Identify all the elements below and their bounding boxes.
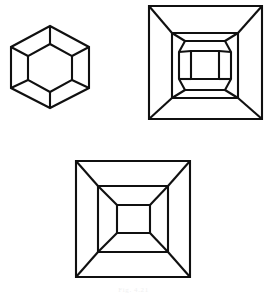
squarefig-outer-diagonal-bl [76,252,98,277]
squarefig-inner-diagonal-bl [98,233,117,252]
octagonfig-outer-diagonal-tl [149,6,172,33]
octagonfig-inner-square [191,51,219,79]
figure-square-octagon [149,6,262,119]
hexagon-inner-outline [28,44,72,92]
octagonfig-diagonal-6 [219,51,231,52]
octagonfig-outer-diagonal-bl [149,98,172,119]
octagonfig-outer-diagonal-tr [238,6,262,33]
octagonfig-diagonal-4 [172,90,185,98]
squarefig-outer-square [76,161,190,277]
hexagon-spoke-top-right [72,47,89,56]
octagonfig-diagonal-1 [172,33,185,41]
squarefig-outer-diagonal-tl [76,161,98,186]
hexagon-spoke-top-left [11,47,28,56]
hexagon-spoke-bottom-left [11,80,28,88]
octagonfig-outer-diagonal-br [238,98,262,119]
hexagon-spoke-bottom-right [72,80,89,88]
octagonfig-diagonal-5 [179,51,191,52]
squarefig-inner-diagonal-tl [98,186,117,205]
squarefig-inner-diagonal-tr [150,186,168,205]
figure-canvas [0,0,267,295]
octagonfig-outer-square [149,6,262,119]
octagonfig-middle-square [172,33,238,98]
figure-caption: Fig. 4.21 [0,286,267,294]
figure-nested-squares [76,161,190,277]
squarefig-outer-diagonal-br [168,252,190,277]
squarefig-outer-diagonal-tr [168,161,190,186]
squarefig-inner-square [117,205,150,233]
figure-nested-hexagon [11,26,89,108]
octagonfig-diagonal-3 [225,90,238,98]
figure-plate: Fig. 4.21 [0,0,267,295]
octagonfig-diagonal-2 [225,33,238,41]
squarefig-inner-diagonal-br [150,233,168,252]
octagonfig-octagon-outline [179,41,231,90]
